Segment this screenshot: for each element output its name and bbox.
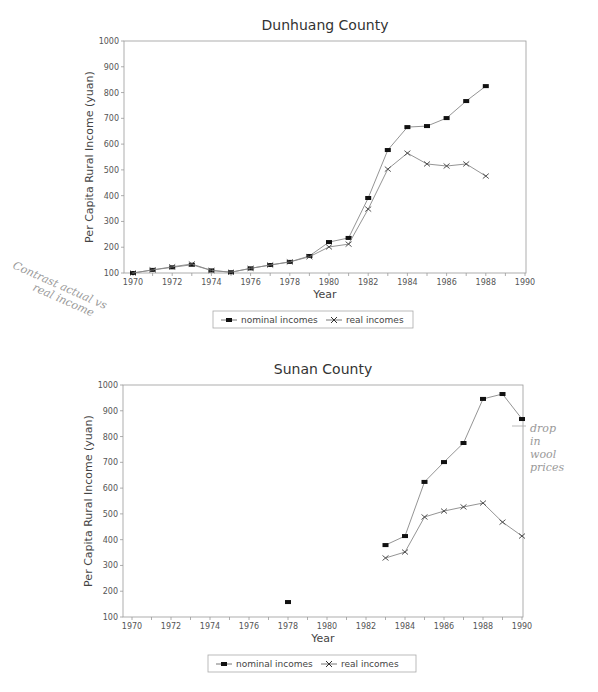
nominal-marker xyxy=(500,392,506,396)
real-marker xyxy=(404,151,410,156)
y-tick-label: 200 xyxy=(104,243,119,252)
x-tick-label: 1990 xyxy=(515,278,535,287)
plot-area xyxy=(124,41,526,273)
y-tick-label: 300 xyxy=(103,561,118,570)
handwritten-note: wool xyxy=(530,448,557,461)
nominal-marker xyxy=(404,125,410,129)
y-tick-label: 900 xyxy=(103,407,118,416)
x-tick-label: 1972 xyxy=(161,622,181,631)
legend: nominal incomesreal incomes xyxy=(208,655,416,672)
y-tick-label: 800 xyxy=(103,433,118,442)
y-tick-label: 1000 xyxy=(98,381,118,390)
handwritten-note: in xyxy=(530,435,541,448)
x-tick-label: 1970 xyxy=(122,622,142,631)
y-tick-label: 500 xyxy=(103,510,118,519)
real-marker xyxy=(402,550,408,555)
nominal-marker xyxy=(461,441,467,445)
y-tick-label: 400 xyxy=(104,192,119,201)
real-income-line xyxy=(386,503,523,558)
handwritten-note: prices xyxy=(530,461,564,474)
x-tick-label: 1988 xyxy=(476,278,496,287)
dunhuang-chart: Dunhuang County1002003004005006007008009… xyxy=(83,17,535,328)
x-tick-label: 1974 xyxy=(200,622,220,631)
legend-square-icon xyxy=(226,318,232,322)
nominal-marker xyxy=(346,236,352,240)
x-tick-label: 1980 xyxy=(319,278,339,287)
y-axis-label: Per Capita Rural Income (yuan) xyxy=(83,71,96,243)
nominal-marker xyxy=(480,397,486,401)
x-axis-label: Year xyxy=(310,632,335,645)
x-tick-label: 1972 xyxy=(162,278,182,287)
handwritten-note: drop xyxy=(530,422,556,435)
y-tick-label: 700 xyxy=(104,114,119,123)
real-marker xyxy=(365,207,371,212)
y-tick-label: 400 xyxy=(103,536,118,545)
x-tick-label: 1982 xyxy=(358,278,378,287)
nominal-income-line xyxy=(133,86,486,273)
x-tick-label: 1984 xyxy=(397,278,417,287)
x-tick-label: 1986 xyxy=(434,622,454,631)
nominal-marker xyxy=(483,84,489,88)
x-tick-label: 1978 xyxy=(280,278,300,287)
real-marker xyxy=(422,514,428,519)
x-tick-label: 1984 xyxy=(395,622,415,631)
legend-nominal-label: nominal incomes xyxy=(241,315,318,325)
y-tick-label: 600 xyxy=(104,140,119,149)
nominal-marker xyxy=(441,460,447,464)
chart-canvas: Dunhuang County1002003004005006007008009… xyxy=(0,0,598,692)
y-tick-label: 300 xyxy=(104,217,119,226)
nominal-marker xyxy=(422,480,428,484)
legend-real-label: real incomes xyxy=(346,315,404,325)
nominal-marker xyxy=(402,534,408,538)
sunan-chart: Sunan County1002003004005006007008009001… xyxy=(82,361,532,672)
y-tick-label: 800 xyxy=(104,89,119,98)
y-tick-label: 900 xyxy=(104,63,119,72)
legend: nominal incomesreal incomes xyxy=(213,311,413,328)
legend-real-label: real incomes xyxy=(341,659,399,669)
x-tick-label: 1980 xyxy=(317,622,337,631)
real-marker xyxy=(385,167,391,172)
y-tick-label: 100 xyxy=(104,269,119,278)
real-marker xyxy=(500,520,506,525)
y-tick-label: 200 xyxy=(103,587,118,596)
real-marker xyxy=(519,534,525,539)
x-tick-label: 1970 xyxy=(123,278,143,287)
nominal-marker xyxy=(385,148,391,152)
y-tick-label: 1000 xyxy=(99,37,119,46)
nominal-marker xyxy=(444,116,450,120)
x-tick-label: 1988 xyxy=(473,622,493,631)
y-tick-label: 100 xyxy=(103,613,118,622)
nominal-marker xyxy=(365,196,371,200)
nominal-marker xyxy=(463,99,469,103)
real-marker xyxy=(483,174,489,179)
legend-nominal-label: nominal incomes xyxy=(236,659,313,669)
nominal-marker xyxy=(326,240,332,244)
y-tick-label: 700 xyxy=(103,458,118,467)
y-tick-label: 600 xyxy=(103,484,118,493)
x-tick-label: 1976 xyxy=(240,278,260,287)
x-tick-label: 1974 xyxy=(201,278,221,287)
nominal-marker xyxy=(383,543,389,547)
x-tick-label: 1982 xyxy=(356,622,376,631)
x-tick-label: 1986 xyxy=(436,278,456,287)
legend-square-icon xyxy=(221,662,227,666)
plot-area xyxy=(123,385,523,617)
x-tick-label: 1978 xyxy=(278,622,298,631)
real-marker xyxy=(383,555,389,560)
nominal-marker xyxy=(424,124,430,128)
y-axis-label: Per Capita Rural Income (yuan) xyxy=(82,415,95,587)
x-tick-label: 1990 xyxy=(512,622,532,631)
chart-title: Sunan County xyxy=(274,361,372,377)
chart-title: Dunhuang County xyxy=(262,17,389,33)
nominal-marker xyxy=(519,417,525,421)
y-tick-label: 500 xyxy=(104,166,119,175)
x-axis-label: Year xyxy=(312,288,337,301)
nominal-marker xyxy=(285,600,291,604)
x-tick-label: 1976 xyxy=(239,622,259,631)
